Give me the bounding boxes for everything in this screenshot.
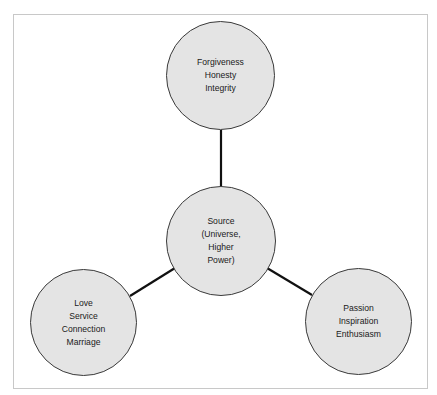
node-right-line: Inspiration bbox=[339, 315, 379, 328]
node-right: Passion Inspiration Enthusiasm bbox=[305, 268, 412, 375]
node-left: Love Service Connection Marriage bbox=[30, 269, 137, 376]
node-top-line: Honesty bbox=[205, 69, 237, 82]
link-center-right bbox=[267, 268, 312, 295]
node-left-line: Service bbox=[69, 310, 98, 323]
node-top-line: Forgiveness bbox=[197, 56, 244, 69]
node-center-line: Power) bbox=[207, 254, 234, 267]
node-top-label: Forgiveness Honesty Integrity bbox=[197, 56, 244, 95]
node-top: Forgiveness Honesty Integrity bbox=[166, 21, 275, 130]
node-center-line: (Universe, bbox=[201, 228, 240, 241]
node-center-line: Higher bbox=[208, 241, 233, 254]
node-right-line: Enthusiasm bbox=[336, 328, 381, 341]
node-top-line: Integrity bbox=[205, 82, 236, 95]
node-left-line: Connection bbox=[62, 323, 105, 336]
node-center: Source (Universe, Higher Power) bbox=[166, 186, 276, 296]
node-left-line: Love bbox=[74, 297, 93, 310]
node-left-line: Marriage bbox=[67, 336, 101, 349]
node-left-label: Love Service Connection Marriage bbox=[62, 297, 105, 349]
link-center-left bbox=[130, 268, 175, 296]
node-center-label: Source (Universe, Higher Power) bbox=[201, 215, 240, 267]
node-right-line: Passion bbox=[343, 302, 374, 315]
node-right-label: Passion Inspiration Enthusiasm bbox=[336, 302, 381, 341]
node-center-line: Source bbox=[207, 215, 234, 228]
